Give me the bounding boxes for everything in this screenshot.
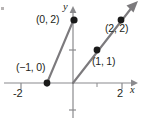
x-tick-label-pos2: 2	[117, 88, 123, 99]
point-label-0-2: (0, 2)	[36, 14, 59, 25]
x-axis-label: x	[130, 85, 134, 96]
shallow-ray-line	[73, 6, 133, 83]
data-point-0-2	[70, 16, 77, 23]
point-label-2-2: (2, 2)	[105, 23, 128, 34]
point-label-1-1: (1, 1)	[92, 56, 115, 67]
point-label-neg1-0: (−1, 0)	[16, 62, 45, 73]
graph-figure: (0, 2) (2, 2) (1, 1) (−1, 0) -2 2 x y	[0, 0, 143, 121]
x-tick-label-neg2: -2	[13, 88, 22, 99]
steep-segment-line	[47, 20, 74, 83]
y-axis-label: y	[63, 2, 67, 13]
data-point-neg1-0	[44, 80, 51, 87]
data-point-1-1	[94, 47, 101, 54]
y-axis-arrowhead	[70, 6, 77, 13]
